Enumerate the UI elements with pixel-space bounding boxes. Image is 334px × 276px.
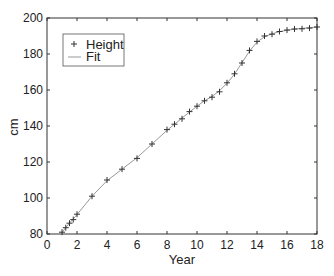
x-tick-label: 16 bbox=[280, 238, 294, 252]
legend: Height Fit bbox=[63, 34, 124, 66]
y-tick-label: 200 bbox=[23, 11, 43, 25]
x-tick-label: 4 bbox=[104, 238, 111, 252]
x-tick-label: 12 bbox=[220, 238, 234, 252]
y-tick-label: 100 bbox=[23, 191, 43, 205]
x-tick-label: 2 bbox=[74, 238, 81, 252]
legend-label-fit: Fit bbox=[86, 49, 101, 64]
y-axis-label: cm bbox=[6, 118, 21, 135]
growth-chart: 024681012141618 80100120140160180200 Yea… bbox=[0, 0, 334, 276]
x-tick-label: 0 bbox=[44, 238, 51, 252]
y-tick-label: 180 bbox=[23, 47, 43, 61]
y-tick-label: 80 bbox=[30, 227, 44, 241]
x-tick-label: 8 bbox=[164, 238, 171, 252]
chart-background bbox=[0, 0, 334, 276]
y-tick-label: 140 bbox=[23, 119, 43, 133]
x-tick-label: 14 bbox=[250, 238, 264, 252]
x-axis-label: Year bbox=[169, 252, 196, 267]
y-tick-label: 120 bbox=[23, 155, 43, 169]
y-tick-label: 160 bbox=[23, 83, 43, 97]
x-tick-label: 18 bbox=[310, 238, 324, 252]
x-tick-label: 10 bbox=[190, 238, 204, 252]
x-tick-label: 6 bbox=[134, 238, 141, 252]
